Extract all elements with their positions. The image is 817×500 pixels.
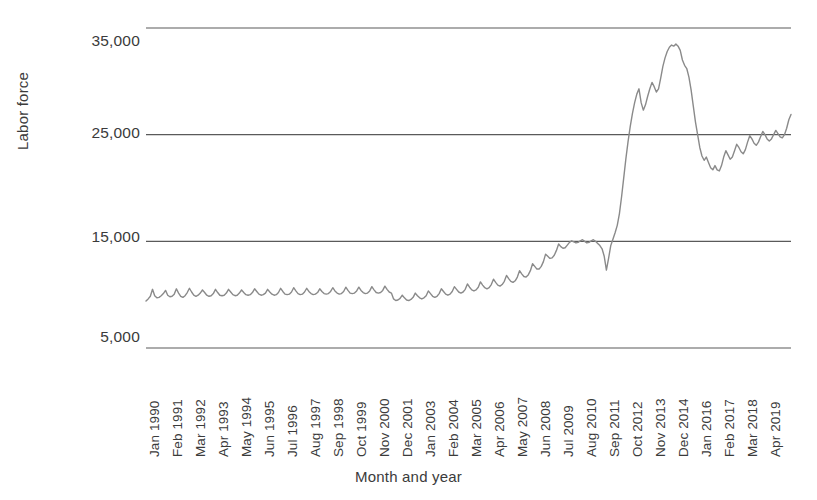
x-tick-label: Feb 2004 — [446, 399, 461, 457]
x-tick-label: Oct 1999 — [354, 401, 369, 457]
x-tick-label: Dec 2001 — [400, 398, 415, 457]
x-tick-label: Jun 2008 — [538, 401, 553, 457]
chart-svg — [146, 28, 791, 348]
data-line-labor-force — [146, 44, 791, 301]
x-tick-label: Jan 2016 — [699, 401, 714, 457]
chart-figure: Labor force 35,000 25,000 15,000 5,000 J… — [0, 0, 817, 500]
x-tick-label: Sep 2011 — [607, 399, 622, 457]
x-tick-label: Jul 1996 — [285, 405, 300, 457]
x-tick-label: Mar 2005 — [469, 399, 484, 457]
x-tick-label: Sep 1998 — [331, 398, 346, 457]
x-tick-label: Aug 1997 — [308, 398, 323, 457]
y-tick-label-5000: 5,000 — [100, 328, 140, 346]
x-axis-title: Month and year — [0, 468, 817, 485]
x-tick-label: Apr 2006 — [492, 401, 507, 457]
x-tick-label: Dec 2014 — [676, 398, 691, 457]
x-axis-tick-labels: Jan 1990Feb 1991Mar 1992Apr 1993May 1994… — [146, 352, 791, 457]
x-tick-label: Aug 2010 — [584, 398, 599, 457]
x-tick-label: Jun 1995 — [262, 401, 277, 457]
x-tick-label: Mar 1992 — [193, 399, 208, 457]
y-tick-label-15000: 15,000 — [91, 228, 140, 246]
x-tick-label: May 1994 — [239, 397, 254, 457]
x-tick-label: Jul 2009 — [561, 405, 576, 457]
x-tick-label: Apr 1993 — [216, 401, 231, 457]
x-tick-label: Mar 2018 — [745, 399, 760, 457]
x-tick-label: Oct 2012 — [630, 401, 645, 457]
y-tick-label-35000: 35,000 — [91, 32, 140, 50]
x-tick-label: Apr 2019 — [768, 401, 783, 457]
x-tick-label: May 2007 — [515, 397, 530, 457]
y-axis-tick-labels: 35,000 25,000 15,000 5,000 — [0, 0, 140, 360]
x-tick-label: Nov 2000 — [377, 398, 392, 457]
x-tick-label: Feb 1991 — [170, 399, 185, 457]
x-tick-label: Nov 2013 — [653, 398, 668, 457]
x-tick-label: Feb 2017 — [722, 399, 737, 457]
gridlines-group — [146, 28, 791, 348]
x-tick-label: Jan 1990 — [147, 401, 162, 457]
y-tick-label-25000: 25,000 — [91, 124, 140, 142]
plot-area — [146, 28, 791, 348]
x-tick-label: Jan 2003 — [423, 401, 438, 457]
